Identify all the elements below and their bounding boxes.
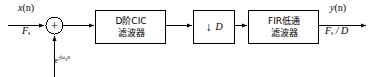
- input-signal-label: x(n): [18, 3, 34, 13]
- block-diagram: + x(n) Fs e-jω0n D阶CIC 滤波器 ↓ D FIR低通 滤波器…: [0, 0, 373, 77]
- fir-filter-block: [249, 11, 319, 44]
- decimator-block: [194, 11, 235, 44]
- input-signal-arg: (n): [22, 2, 34, 13]
- summing-junction-plus-sign: +: [46, 17, 63, 34]
- input-rate-label: Fs: [22, 26, 30, 37]
- diagram-canvas: [0, 0, 373, 77]
- cic-filter-block: [96, 11, 166, 44]
- output-signal-arg: (n): [334, 2, 346, 13]
- output-rate-divisor: / D: [333, 25, 348, 36]
- output-signal-label: y(n): [330, 3, 346, 13]
- input-rate-subscript: s: [28, 30, 30, 36]
- oscillator-exponent-tail: n: [67, 54, 70, 60]
- oscillator-exponential-label: e-jω0n: [54, 55, 70, 65]
- output-rate-label: Fs / D: [325, 26, 348, 37]
